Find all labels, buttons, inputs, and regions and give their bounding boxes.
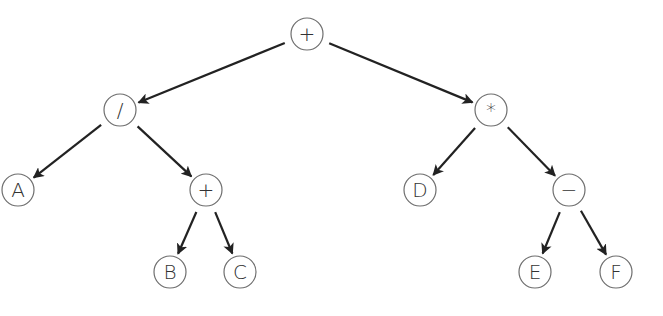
node-label: * (486, 98, 496, 122)
node-label: E (529, 260, 542, 284)
edge-arrow (543, 212, 560, 253)
node-label: F (610, 260, 622, 284)
node-label: + (198, 178, 215, 202)
expression-tree-diagram: +/*A+D−BCEF (0, 0, 663, 316)
tree-node: E (519, 256, 551, 288)
node-label: D (412, 178, 427, 202)
edge-arrow (139, 43, 285, 102)
tree-node: * (475, 94, 507, 126)
tree-node: D (404, 174, 436, 206)
edges-layer (34, 43, 606, 255)
tree-node: + (190, 174, 222, 206)
edge-arrow (581, 211, 606, 255)
node-label: / (117, 98, 124, 122)
node-label: A (11, 178, 25, 202)
node-label: C (233, 260, 247, 284)
tree-node: − (553, 174, 585, 206)
node-label: B (163, 260, 176, 284)
node-label: + (299, 22, 316, 46)
edge-arrow (34, 125, 101, 178)
edge-arrow (215, 212, 232, 253)
tree-node: / (104, 94, 136, 126)
tree-node: F (600, 256, 632, 288)
nodes-layer: +/*A+D−BCEF (2, 18, 632, 288)
edge-arrow (329, 43, 472, 102)
edge-arrow (508, 127, 555, 175)
node-label: − (561, 178, 578, 202)
tree-node: + (291, 18, 323, 50)
tree-node: A (2, 174, 34, 206)
edge-arrow (178, 212, 196, 254)
tree-node: C (224, 256, 256, 288)
edge-arrow (433, 128, 475, 175)
tree-node: B (154, 256, 186, 288)
edge-arrow (138, 126, 192, 176)
